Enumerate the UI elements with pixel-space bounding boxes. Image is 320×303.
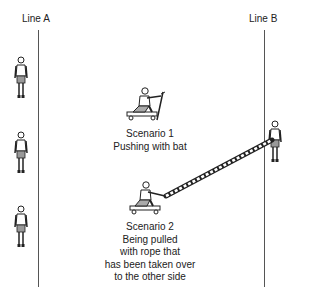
scooter-board-rope-icon — [128, 180, 168, 216]
scenario-2-description-line: has been taken over — [80, 259, 220, 272]
scenario-2-title: Scenario 2 — [80, 221, 220, 234]
scenario-2-description-line: with rope that — [80, 246, 220, 259]
scenario-2-description-line: to the other side — [80, 271, 220, 284]
scenario-2-caption: Scenario 2 Being pulled with rope that h… — [80, 221, 220, 284]
scenario-2-description-line: Being pulled — [80, 234, 220, 247]
